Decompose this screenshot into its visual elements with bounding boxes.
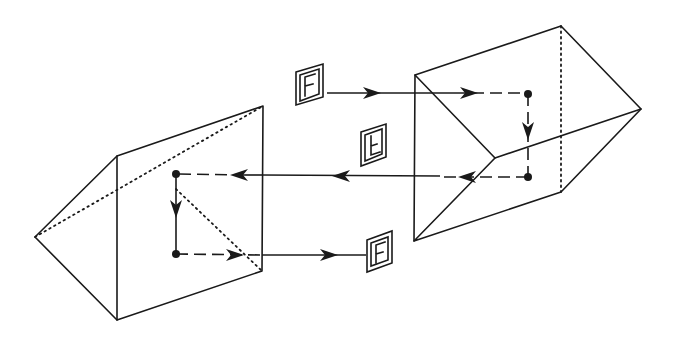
left-prism-hidden-edge-apex bbox=[35, 106, 263, 237]
arrow-down-icon bbox=[522, 122, 534, 140]
left-prism-hidden-edge-diagonal bbox=[176, 189, 262, 271]
outgoing-ray-internal bbox=[176, 254, 262, 255]
output-image-card bbox=[367, 231, 392, 272]
left-prism-front-face bbox=[117, 106, 263, 320]
left-prism-apex-edges bbox=[35, 156, 117, 320]
left-prism bbox=[35, 106, 263, 320]
transfer-ray bbox=[262, 175, 440, 176]
right-prism-left-edge bbox=[414, 75, 415, 241]
intermediate-image-card bbox=[361, 124, 386, 166]
porro-prism-diagram bbox=[0, 0, 679, 346]
input-image-card bbox=[296, 64, 323, 105]
